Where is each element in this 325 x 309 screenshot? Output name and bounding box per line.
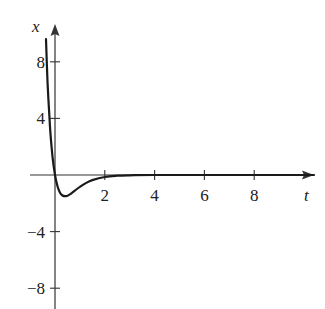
axes [30,24,314,309]
chart: 246884−4−8 t x [0,0,325,309]
y-tick-label: 4 [37,109,46,128]
y-axis-label: x [31,17,40,36]
x-tick-label: 4 [150,186,159,205]
y-tick-label: −8 [27,279,45,298]
x-tick-label: 8 [250,186,259,205]
y-tick-label: 8 [37,53,46,72]
solution-curve [46,39,314,196]
y-tick-label: −4 [27,223,46,242]
x-tick-label: 2 [101,186,110,205]
x-axis-label: t [304,186,310,205]
x-tick-label: 6 [200,186,209,205]
